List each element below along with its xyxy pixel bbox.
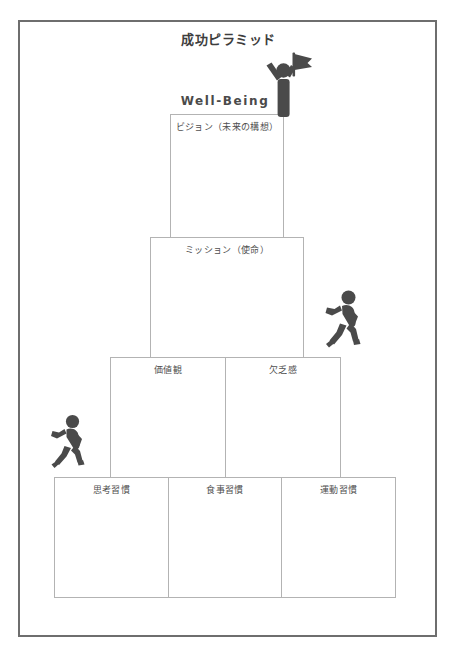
pyramid-cell-label: 欠乏感	[226, 363, 340, 376]
pyramid-cell-diet-habit[interactable]: 食事習慣	[168, 477, 283, 598]
slide-canvas: 成功ピラミッド Well-Being ビジョン（未来の構想） ミッション（使命）…	[0, 0, 457, 660]
page-title: 成功ピラミッド	[0, 29, 457, 48]
running-person-icon	[47, 412, 95, 476]
pyramid-cell-exercise-habit[interactable]: 運動習慣	[281, 477, 396, 598]
pyramid-cell-label: ミッション（使命）	[151, 243, 303, 256]
pyramid-cell-deficiency[interactable]: 欠乏感	[225, 357, 341, 478]
pyramid-cell-label: 思考習慣	[55, 483, 168, 496]
pyramid-cell-mission[interactable]: ミッション（使命）	[150, 237, 304, 358]
pyramid-cell-vision[interactable]: ビジョン（未来の構想）	[170, 114, 284, 238]
pyramid-cell-label: 価値観	[111, 363, 225, 376]
pyramid-cell-label: 食事習慣	[169, 483, 282, 496]
pyramid-cell-values[interactable]: 価値観	[110, 357, 226, 478]
running-person-icon	[322, 287, 370, 357]
pyramid-tier-values: 価値観 欠乏感	[110, 357, 341, 478]
pyramid-tier-habits: 思考習慣 食事習慣 運動習慣	[54, 477, 396, 598]
pyramid-cell-label: 運動習慣	[282, 483, 395, 496]
wellbeing-label: Well-Being	[0, 94, 450, 108]
pyramid-tier-mission: ミッション（使命）	[150, 237, 304, 358]
pyramid-cell-label: ビジョン（未来の構想）	[171, 120, 283, 133]
person-with-flag-icon	[263, 50, 317, 120]
pyramid-tier-vision: ビジョン（未来の構想）	[170, 114, 284, 238]
pyramid-cell-thinking-habit[interactable]: 思考習慣	[54, 477, 169, 598]
